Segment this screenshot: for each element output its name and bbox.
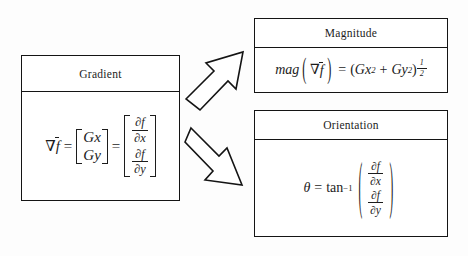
gradient-box-title: Gradient [79, 68, 122, 80]
half-exponent: 1 2 [417, 59, 427, 79]
equals-sign-2: = [112, 139, 120, 154]
orientation-box-header: Orientation [255, 111, 447, 140]
gradient-box-body: ∇f = Gx Gy = ∂f ∂x [22, 92, 179, 200]
orientation-box-body: θ = tan−1 ( ∂f ∂x ∂f ∂y ) [255, 140, 447, 236]
partial-f-partial-x-orient: ∂f ∂x [367, 160, 384, 187]
open-paren-orient: ( [358, 156, 362, 220]
equals-sign-mag: = [338, 63, 346, 77]
arrow-to-orientation-icon [185, 128, 242, 185]
gradient-formula: ∇f = Gx Gy = ∂f ∂x [45, 115, 156, 178]
close-paren-mag: ) [327, 56, 331, 85]
theta-symbol: θ [303, 181, 310, 195]
vector-f: f [56, 138, 60, 154]
matrix-cell-gy: Gy [83, 148, 101, 163]
orientation-box-title: Orientation [323, 119, 379, 131]
open-paren-mag: ( [303, 56, 307, 85]
diagram-canvas: Gradient ∇f = Gx Gy = ∂f ∂x [0, 0, 468, 256]
partial-f-partial-y: ∂f ∂y [131, 148, 149, 177]
matrix-cell-gx: Gx [83, 130, 101, 145]
vector-f-mag: f [320, 63, 324, 78]
gradient-box: Gradient ∇f = Gx Gy = ∂f ∂x [21, 55, 180, 201]
equals-sign-orient: = [314, 181, 322, 195]
orientation-ratio: ∂f ∂x ∂f ∂y [367, 160, 384, 216]
close-paren-orient: ) [389, 156, 393, 220]
magnitude-box-header: Magnitude [255, 19, 447, 48]
magnitude-box-title: Magnitude [325, 27, 378, 39]
arrow-to-magnitude-icon [186, 52, 243, 110]
gradient-box-header: Gradient [22, 56, 179, 92]
nabla-symbol: ∇ [45, 139, 55, 154]
mag-function-name: mag [275, 63, 299, 77]
gradient-component-matrix: Gx Gy [76, 129, 108, 164]
partial-f-partial-y-orient: ∂f ∂y [367, 189, 384, 216]
gx-exponent: 2 [371, 66, 375, 75]
partial-f-partial-x: ∂f ∂x [131, 116, 149, 145]
nabla-symbol-mag: ∇ [310, 63, 320, 77]
gradient-partial-matrix: ∂f ∂x ∂f ∂y [124, 115, 156, 178]
equals-sign-1: = [64, 139, 72, 154]
magnitude-formula: mag ( ∇f ) = (Gx2 +Gy2) 1 2 [275, 60, 427, 80]
tan-inverse-exponent: −1 [343, 184, 352, 193]
orientation-formula: θ = tan−1 ( ∂f ∂x ∂f ∂y ) [303, 160, 398, 216]
tan-function-name: tan [326, 181, 343, 195]
magnitude-box-body: mag ( ∇f ) = (Gx2 +Gy2) 1 2 [255, 48, 447, 92]
plus-sign: + [380, 63, 388, 77]
orientation-box: Orientation θ = tan−1 ( ∂f ∂x ∂f ∂y [254, 110, 448, 237]
magnitude-box: Magnitude mag ( ∇f ) = (Gx2 +Gy2) 1 2 [254, 18, 448, 93]
gx-term: Gx [355, 63, 371, 77]
gy-term: Gy [391, 63, 407, 77]
